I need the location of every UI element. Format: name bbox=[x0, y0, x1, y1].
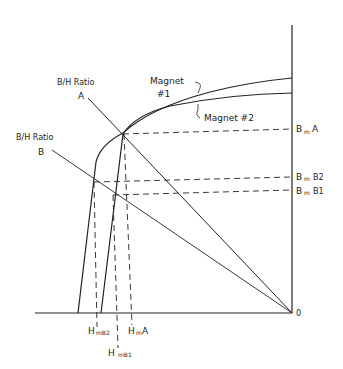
svg-text:B1: B1 bbox=[313, 187, 324, 196]
ratio-a-label: B/H Ratio bbox=[57, 78, 94, 87]
ratio-a-letter: A bbox=[78, 91, 85, 101]
svg-text:B: B bbox=[296, 186, 302, 196]
dash-hma bbox=[124, 134, 132, 325]
svg-text:A: A bbox=[312, 124, 319, 134]
hma-label: H m A bbox=[128, 326, 149, 336]
svg-text:H: H bbox=[128, 326, 135, 336]
dash-bmb2 bbox=[94, 177, 292, 182]
dash-bmb1 bbox=[113, 190, 292, 195]
hmb1-label: H mB1 bbox=[108, 348, 132, 358]
svg-text:mB1: mB1 bbox=[118, 351, 132, 358]
svg-text:H: H bbox=[108, 348, 115, 358]
svg-text:m: m bbox=[304, 175, 310, 182]
magnet-2-pointer bbox=[197, 104, 200, 118]
magnet-1-curve bbox=[78, 78, 292, 313]
svg-text:B: B bbox=[296, 172, 302, 182]
svg-text:A: A bbox=[142, 326, 149, 336]
magnet-1-label: Magnet bbox=[150, 76, 184, 86]
svg-text:H: H bbox=[88, 326, 95, 336]
magnet-1-pointer bbox=[195, 82, 200, 93]
bmb2-label: B m B2 bbox=[296, 172, 324, 182]
hmb2-label: H mB2 bbox=[88, 326, 110, 336]
dash-hmb2 bbox=[94, 182, 97, 327]
svg-text:m: m bbox=[304, 128, 310, 135]
svg-text:B2: B2 bbox=[313, 173, 324, 182]
load-line-a bbox=[88, 98, 292, 313]
svg-text:m: m bbox=[304, 189, 310, 196]
bma-label: B m A bbox=[296, 124, 319, 135]
magnet-2-label: Magnet #2 bbox=[204, 113, 254, 123]
magnet-1-number: #1 bbox=[157, 89, 170, 99]
demagnetization-diagram: B/H Ratio A B/H Ratio B Magnet #1 Magnet… bbox=[0, 0, 343, 369]
dash-bma bbox=[123, 129, 292, 134]
origin-label: 0 bbox=[296, 309, 301, 318]
ratio-b-label: B/H Ratio bbox=[16, 133, 53, 142]
bmb1-label: B m B1 bbox=[296, 186, 324, 196]
svg-text:B: B bbox=[296, 124, 302, 134]
svg-text:mB2: mB2 bbox=[96, 329, 110, 336]
dash-hmb1 bbox=[113, 195, 118, 348]
ratio-b-letter: B bbox=[38, 147, 44, 157]
